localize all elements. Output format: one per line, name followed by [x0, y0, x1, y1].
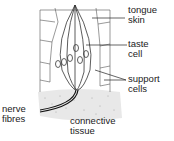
label-nerve-fibres: nerve fibres	[2, 104, 26, 124]
label-skin: skin	[128, 15, 157, 25]
label-tongue-skin: tongue skin	[128, 5, 157, 25]
taste-bud-diagram: tongue skin taste cell support cells ner…	[0, 0, 174, 141]
taste-bud	[56, 5, 92, 90]
label-connective-tissue: connective tissue	[70, 116, 115, 136]
label-support-cells: support cells	[128, 74, 160, 94]
label-cell: cell	[128, 49, 149, 59]
label-cells: cells	[128, 84, 160, 94]
label-taste-cell: taste cell	[128, 39, 149, 59]
label-tissue: tissue	[70, 126, 115, 136]
label-fibres: fibres	[2, 114, 26, 124]
label-pointers	[86, 18, 127, 80]
pointer-support-cells-1	[95, 70, 126, 80]
